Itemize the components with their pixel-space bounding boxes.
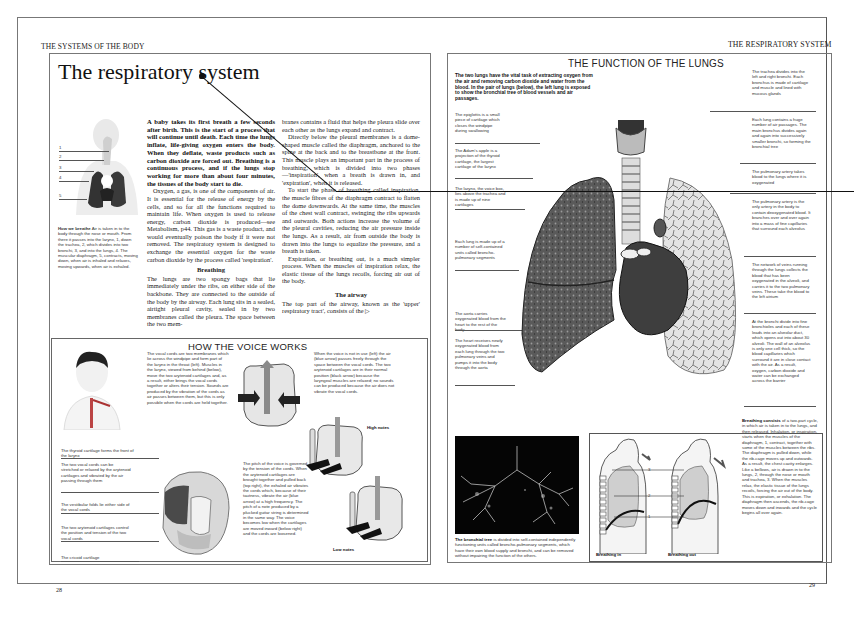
callout-rule xyxy=(455,330,523,331)
lungs-intro: The two lungs have the vital task of ext… xyxy=(455,73,595,102)
figure-label: 5 xyxy=(59,193,61,198)
page-title: The respiratory system xyxy=(58,59,260,85)
high-notes-label: High notes xyxy=(367,425,389,430)
right-page-number: 29 xyxy=(809,582,815,588)
diagram-label-1: 1 xyxy=(648,514,650,519)
larynx-icon xyxy=(238,360,300,430)
voice-pitch-text: The pitch of the voice is governed by th… xyxy=(243,461,309,537)
callout-rule xyxy=(61,561,139,562)
bronchial-tree-icon xyxy=(455,436,579,534)
paragraph-inspiration: To start the phase of breathing called i… xyxy=(282,186,420,254)
caption-text: Air is taken in to the body through the … xyxy=(58,226,138,269)
annotation-dot-icon xyxy=(199,73,205,79)
callout-rule xyxy=(455,209,525,210)
paragraph-breathing: The lungs are two spongy bags that lie i… xyxy=(147,275,275,328)
paragraph-diaphragm: Directly below the pleural membranes is … xyxy=(282,133,420,186)
larynx-cutaway-icon xyxy=(155,468,235,558)
callout-rule xyxy=(61,492,159,493)
larynx-high-notes-icon xyxy=(306,417,366,479)
low-notes-illustration xyxy=(346,476,406,546)
callout-rule xyxy=(744,313,816,314)
label-rule xyxy=(59,171,94,172)
low-notes-label: Low notes xyxy=(333,547,354,552)
callout-vocal-cords: The two vocal cords can be stretched or … xyxy=(61,462,131,484)
high-notes-illustration xyxy=(306,417,366,479)
left-running-head: THE SYSTEMS OF THE BODY xyxy=(41,42,144,51)
subhead-breathing: Breathing xyxy=(147,266,275,274)
man-portrait-photo xyxy=(62,350,122,430)
paragraph-airway: The top part of the airway, known as the… xyxy=(282,300,420,315)
voice-not-in-use-text: When the voice is not in use (left) the … xyxy=(314,351,398,394)
text-column-2: branes contains a fluid that helps the p… xyxy=(282,118,420,315)
callout-larynx: The larynx, the voice box, lies above th… xyxy=(455,186,507,208)
annotation-horizontal-line xyxy=(336,191,854,192)
figure-caption-how-we-breathe: How we breathe Air is taken in to the bo… xyxy=(58,226,138,269)
figure-label: 3 xyxy=(59,165,61,170)
diagram-label-2: 2 xyxy=(648,493,650,498)
lungs-heart-illustration xyxy=(518,120,746,395)
label-rule xyxy=(59,151,109,152)
figure-label: 2 xyxy=(59,154,61,159)
figure-label: 1 xyxy=(59,145,61,150)
body-silhouette-icon xyxy=(56,115,141,215)
larynx-rear-illustration xyxy=(238,360,300,430)
callout-arytenoid-cartilages: The two arytenoid cartilages control the… xyxy=(61,525,131,541)
callout-cricoid-cartilage: The cricoid cartilage xyxy=(61,555,131,560)
caption-lead: How we breathe xyxy=(58,226,91,231)
label-rule xyxy=(59,160,104,161)
paragraph-oxygen: Oxygen, a gas, is one of the components … xyxy=(147,187,275,263)
breathing-in-label: Breathing in xyxy=(596,552,621,557)
callout-rule xyxy=(744,256,816,257)
figure-label: 4 xyxy=(59,175,61,180)
vocal-cords-text: The vocal cords are two membranes which … xyxy=(147,351,229,405)
subhead-airway: The airway xyxy=(282,291,420,299)
callout-rule xyxy=(61,513,159,514)
larynx-low-notes-icon xyxy=(346,476,406,546)
breathing-cycle-text: Breathing consists of a two-part cycle, … xyxy=(742,418,818,515)
callout-veins-network: The network of veins running through the… xyxy=(752,262,812,300)
callout-pulmonary-artery: The pulmonary artery takes blood to the … xyxy=(752,169,810,185)
callout-rule xyxy=(740,163,816,164)
bronchial-tree-caption: The bronchial tree is divided into self-… xyxy=(455,537,579,559)
callout-rule xyxy=(61,458,159,459)
paragraph-pleura: branes contains a fluid that helps the p… xyxy=(282,118,420,133)
callout-rule xyxy=(730,193,816,194)
callout-rule xyxy=(455,385,515,386)
breathing-diagram xyxy=(594,436,739,554)
callout-bronchopulmonary-segments: Each lung is made up of a number of self… xyxy=(455,239,505,261)
label-rule xyxy=(59,199,87,200)
callout-rule xyxy=(710,111,816,112)
callout-adams-apple: The Adam's apple is a projection of the … xyxy=(455,148,505,170)
text-column-1: A baby takes its first breath a few seco… xyxy=(147,118,275,328)
callout-vestibular-folds: The vestibular folds lie either side of … xyxy=(61,502,131,513)
figure-how-we-breathe xyxy=(56,115,141,215)
paragraph-expiration: Expiration, or breathing out, is a much … xyxy=(282,255,420,285)
bronchial-tree-photo xyxy=(455,436,579,534)
function-of-lungs-heading: THE FUNCTION OF THE LUNGS xyxy=(568,58,724,69)
portrait-icon xyxy=(62,350,122,430)
caption-lead: The bronchial tree xyxy=(455,537,492,542)
left-page-number: 28 xyxy=(56,587,62,593)
callout-heart: The heart receives newly oxygenated bloo… xyxy=(455,338,505,370)
callout-rule xyxy=(744,406,816,407)
larynx-3d-illustration xyxy=(155,468,235,558)
breathing-cycle-body: of a two-part cycle, in which air is tak… xyxy=(742,418,818,515)
callout-pulmonary-artery-deoxygenated: The pulmonary artery is the only artery … xyxy=(752,199,812,231)
label-rule xyxy=(59,181,89,182)
callout-alveoli: At the bronchi divide into fine bronchio… xyxy=(752,319,812,384)
right-running-head: THE RESPIRATORY SYSTEM xyxy=(728,40,832,49)
callout-bronchial-tree: Each lung contains a huge number of air … xyxy=(752,117,812,149)
callout-rule xyxy=(455,270,519,271)
callout-trachea-bronchi: The trachea divides into the left and ri… xyxy=(752,69,810,96)
callout-epiglottis: The epiglottis is a small piece of carti… xyxy=(455,112,503,134)
intro-paragraph: A baby takes its first breath a few seco… xyxy=(147,118,275,187)
callout-rule xyxy=(61,541,159,542)
diagram-label-3: 3 xyxy=(648,467,650,472)
breathing-diagram-icon xyxy=(594,436,739,554)
breathing-cycle-lead: Breathing consists xyxy=(742,418,781,423)
breathing-out-label: Breathing out xyxy=(668,552,696,557)
lungs-icon xyxy=(518,120,746,395)
